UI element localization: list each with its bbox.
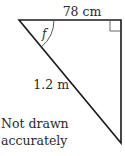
hypotenuse-label: 1.2 m: [33, 77, 69, 92]
note-line-2: accurately: [1, 133, 68, 148]
note-line-1: Not drawn: [1, 116, 69, 131]
triangle-diagram: 78 cm f 1.2 m Not drawn accurately: [0, 0, 125, 156]
right-angle-marker: [110, 20, 121, 31]
top-side-label: 78 cm: [63, 4, 102, 19]
angle-label: f: [41, 27, 49, 41]
